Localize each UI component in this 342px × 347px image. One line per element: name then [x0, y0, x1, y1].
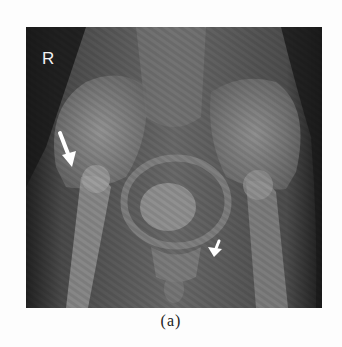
radiograph-figure: R: [26, 27, 322, 308]
pelvis-xray-image: [26, 27, 322, 308]
side-marker-label: R: [42, 49, 54, 69]
figure-caption: (a): [0, 312, 342, 330]
